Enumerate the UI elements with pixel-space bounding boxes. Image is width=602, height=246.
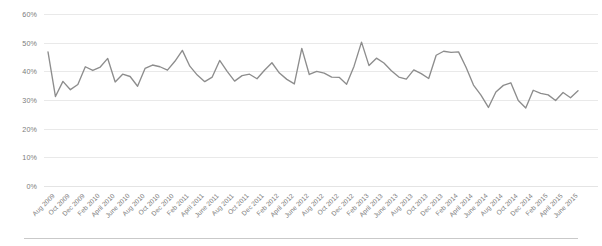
line-chart-figure: 60%50%40%30%20%10%0% Aug 2009Oct 2009Dec… [0,0,602,246]
footer-divider [24,238,578,239]
x-axis: Aug 2009Oct 2009Dec 2009Feb 2010April 20… [0,0,602,246]
